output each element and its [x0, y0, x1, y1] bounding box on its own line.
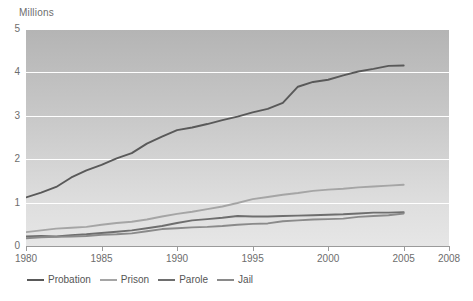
series-line-probation	[26, 65, 404, 197]
series-lines	[26, 29, 449, 246]
y-axis-tick-label: 1	[0, 197, 20, 208]
x-axis-tick-label: 2000	[317, 253, 339, 264]
x-axis-tick-mark	[404, 247, 405, 251]
legend-swatch-icon	[100, 279, 117, 281]
x-axis-tick-mark	[26, 247, 27, 251]
y-axis-tick-label: 4	[0, 66, 20, 77]
x-axis-tick-label: 1985	[90, 253, 112, 264]
series-line-parole	[26, 212, 404, 236]
x-axis-tick-label: 1995	[241, 253, 263, 264]
legend-swatch-icon	[158, 279, 175, 281]
prison-population-line-chart: Millions 543210 198019851990199520002005…	[0, 0, 473, 301]
y-axis-tick-label: 0	[0, 240, 20, 251]
x-axis-tick-mark	[177, 247, 178, 251]
x-axis-tick-mark	[253, 247, 254, 251]
x-axis-tick-label: 2008	[438, 253, 460, 264]
x-axis-tick-label: 2005	[393, 253, 415, 264]
legend-item-jail[interactable]: Jail	[217, 274, 253, 285]
legend-item-label: Prison	[121, 274, 149, 285]
series-line-prison	[26, 185, 404, 232]
y-axis-tick-label: 3	[0, 110, 20, 121]
legend: ProbationPrisonParoleJail	[27, 274, 253, 285]
legend-item-probation[interactable]: Probation	[27, 274, 91, 285]
x-axis-tick-mark	[328, 247, 329, 251]
x-axis-tick-label: 1990	[166, 253, 188, 264]
x-axis-line	[26, 246, 450, 247]
legend-item-prison[interactable]: Prison	[100, 274, 149, 285]
y-axis-tick-label: 5	[0, 23, 20, 34]
x-axis-tick-label: 1980	[15, 253, 37, 264]
x-axis-tick-mark	[449, 247, 450, 251]
x-axis-tick-mark	[102, 247, 103, 251]
y-axis-units-label: Millions	[19, 7, 54, 18]
legend-swatch-icon	[27, 279, 44, 281]
legend-item-label: Jail	[238, 274, 253, 285]
y-axis-tick-label: 2	[0, 153, 20, 164]
legend-item-label: Parole	[179, 274, 208, 285]
legend-item-parole[interactable]: Parole	[158, 274, 208, 285]
legend-item-label: Probation	[48, 274, 91, 285]
legend-swatch-icon	[217, 279, 234, 281]
plot-area	[26, 29, 449, 246]
